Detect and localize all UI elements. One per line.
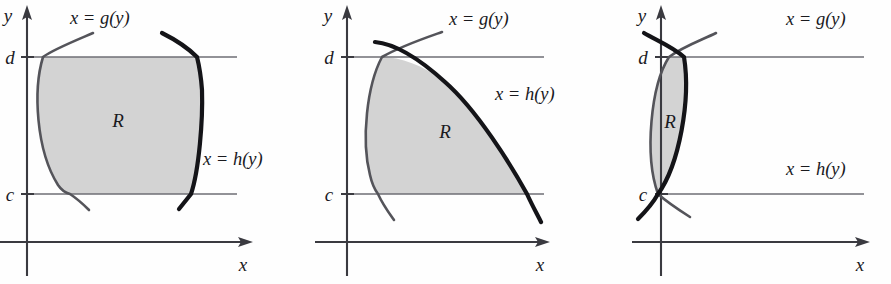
panel-3-lens-region: y x d c R x = g(y) x = h(y) xyxy=(594,0,891,284)
left-curve-label-g: x = g(y) xyxy=(448,9,509,30)
right-curve-label-h: x = h(y) xyxy=(494,84,555,105)
region-label-R: R xyxy=(111,110,124,131)
upper-bound-label-d: d xyxy=(638,47,648,68)
left-curve-label-g: x = g(y) xyxy=(785,9,846,30)
x-axis-label: x xyxy=(535,254,545,275)
figure-three-regions: y x d c R x = g(y) x = h(y) y x d c R x … xyxy=(0,0,891,284)
lower-bound-label-c: c xyxy=(6,184,15,205)
right-curve-label-h: x = h(y) xyxy=(785,159,846,180)
y-axis-label: y xyxy=(636,5,647,26)
upper-bound-label-d: d xyxy=(5,47,15,68)
region-label-R: R xyxy=(663,111,676,132)
panel-1-rounded-region: y x d c R x = g(y) x = h(y) xyxy=(0,0,297,284)
lower-bound-label-c: c xyxy=(639,184,648,205)
y-axis-label: y xyxy=(322,5,333,26)
x-axis-label: x xyxy=(855,254,865,275)
y-axis-label: y xyxy=(2,5,13,26)
upper-bound-label-d: d xyxy=(324,47,334,68)
right-curve-label-h: x = h(y) xyxy=(202,149,263,170)
region-label-R: R xyxy=(438,121,451,142)
x-axis-label: x xyxy=(238,254,248,275)
lower-bound-label-c: c xyxy=(325,184,334,205)
panel-2-leaf-region: y x d c R x = g(y) x = h(y) xyxy=(297,0,594,284)
left-curve-label-g: x = g(y) xyxy=(69,8,130,29)
